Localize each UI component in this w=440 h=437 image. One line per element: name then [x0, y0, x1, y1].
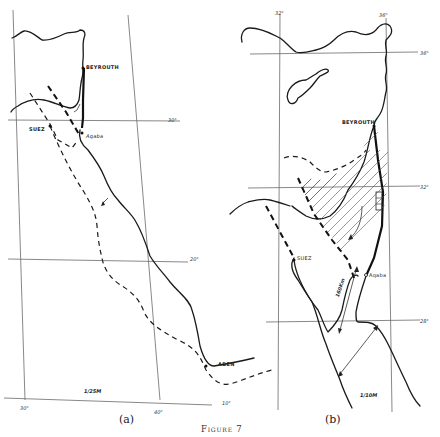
rift-line-b — [366, 126, 383, 276]
place-suez-a: SUEZ — [29, 126, 45, 132]
tick-lat-20-a: 20° — [190, 256, 199, 262]
tick-lat-28-b: 28° — [420, 318, 429, 324]
place-beyrouth-a: BEYROUTH — [86, 64, 119, 70]
place-beyrouth-b: BEYROUTH — [342, 119, 375, 125]
grid-lat-30-a — [8, 120, 180, 121]
figure-map-drawing — [0, 0, 440, 437]
grid-lat-20-a — [8, 259, 188, 262]
grid-lon-40-a — [128, 15, 160, 400]
grid-lon-30-a — [13, 10, 25, 400]
rift-dashed-b — [298, 178, 354, 278]
tick-lat-36-b: 36° — [420, 50, 429, 56]
tick-lon-30-a: 30° — [20, 405, 29, 411]
scale-a: 1/25M — [84, 388, 101, 394]
place-suez-b: SUEZ — [297, 255, 312, 261]
panel-a-map — [4, 10, 272, 405]
tick-lon-32-b: 32° — [275, 10, 284, 16]
panel-label-b: (b) — [325, 413, 341, 426]
tick-lon-40-a: 40° — [154, 409, 163, 415]
panel-label-a: (a) — [119, 413, 134, 426]
grid-lat-10-a — [4, 398, 212, 405]
place-aden-a: ADEN — [218, 361, 235, 367]
grid-lat-36-b — [250, 52, 418, 54]
place-aqaba-a: Aqaba — [86, 133, 103, 139]
tick-lat-30-a: 30° — [168, 117, 177, 123]
figure-caption: Figure 7 — [201, 424, 243, 434]
grid-lon-32-b — [278, 14, 280, 410]
place-aqaba-b: Aqaba — [369, 272, 386, 278]
grid-lon-36-b — [386, 18, 392, 412]
scale-b: 1/10M — [360, 392, 377, 398]
tick-lon-36-b: 36° — [379, 12, 388, 18]
tick-lat-10-a: 10° — [222, 400, 231, 406]
tick-lat-32-b: 32° — [420, 184, 429, 190]
